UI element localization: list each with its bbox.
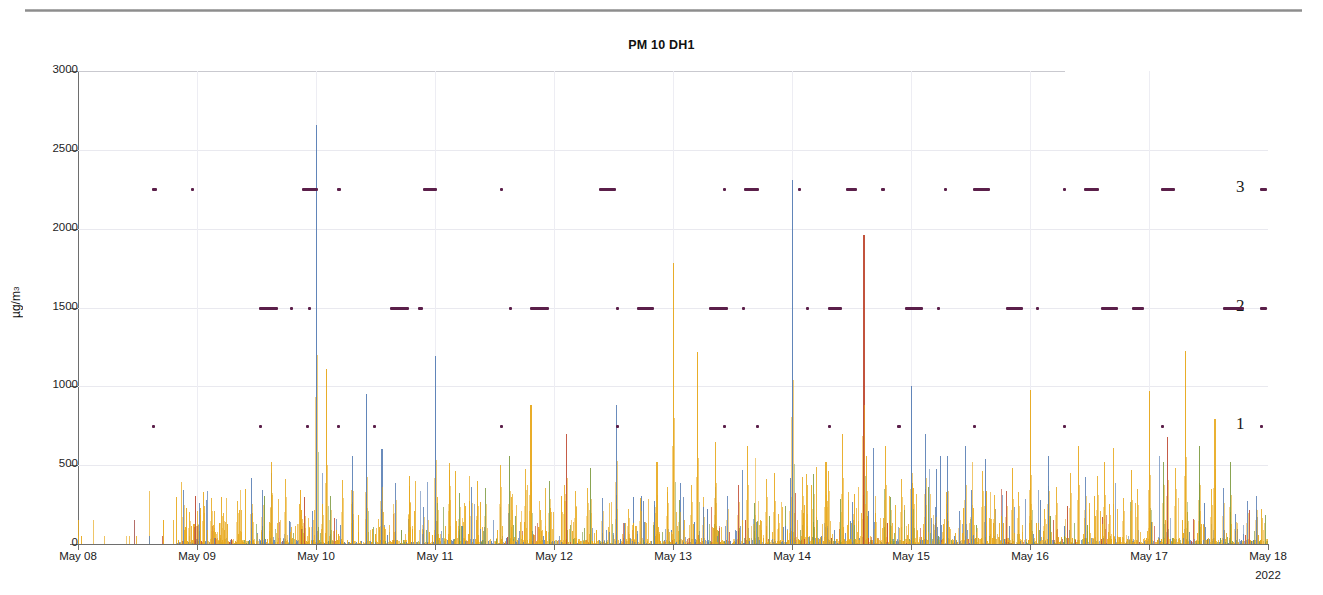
marker-dot	[423, 188, 437, 191]
data-spike	[589, 510, 590, 544]
data-spike	[914, 504, 915, 544]
marker-dot	[1260, 425, 1263, 428]
data-spike	[884, 500, 885, 544]
data-spike	[1110, 515, 1111, 544]
marker-dot	[742, 307, 745, 310]
data-spike	[434, 478, 435, 544]
data-spike	[420, 491, 421, 544]
marker-dot	[1161, 425, 1164, 428]
marker-dot	[973, 188, 990, 191]
data-spike	[510, 491, 511, 544]
data-spike	[739, 502, 740, 544]
data-spike	[791, 417, 792, 544]
data-spike	[321, 524, 322, 544]
data-spike	[666, 516, 667, 544]
data-spike	[672, 446, 673, 544]
data-spike	[1249, 510, 1250, 544]
marker-dot	[798, 188, 801, 191]
data-spike	[541, 520, 542, 544]
marker-dot	[152, 425, 155, 428]
data-spike	[714, 498, 715, 544]
marker-dot	[259, 307, 278, 310]
data-spike	[886, 485, 887, 544]
data-spike	[1032, 510, 1033, 544]
y-tick-label-text: 1000	[32, 378, 78, 390]
data-spike	[862, 436, 863, 544]
data-spike	[801, 510, 802, 544]
data-spike	[889, 520, 890, 544]
data-spike	[1084, 510, 1085, 544]
data-spike	[924, 494, 925, 544]
x-tick-label: May 10	[297, 550, 335, 562]
marker-dot	[1223, 307, 1244, 310]
data-spike	[1019, 506, 1020, 544]
data-spike	[773, 512, 774, 544]
data-spike	[1005, 517, 1006, 544]
data-spike	[704, 517, 705, 544]
data-spike	[627, 526, 628, 544]
marker-dot	[1260, 188, 1267, 191]
data-spike	[298, 524, 299, 544]
data-spike	[261, 517, 262, 544]
y-tick-label-text: 0	[32, 536, 78, 548]
series-canvas	[78, 71, 1268, 544]
data-spike	[1055, 515, 1056, 544]
data-spike	[1071, 493, 1072, 544]
data-spike	[358, 532, 359, 544]
data-spike	[675, 482, 676, 544]
data-spike	[470, 516, 471, 545]
data-spike	[394, 513, 395, 544]
data-spike	[382, 487, 383, 544]
data-spike	[1267, 541, 1268, 544]
data-spike	[1213, 488, 1214, 544]
data-spike	[1215, 469, 1216, 544]
data-spike	[851, 523, 852, 544]
x-tick-label: May 09	[178, 550, 216, 562]
data-spike	[995, 509, 996, 544]
data-spike	[460, 507, 461, 544]
data-spike	[438, 510, 439, 544]
data-spike	[576, 506, 577, 544]
data-spike	[1237, 523, 1238, 544]
data-spike	[696, 477, 697, 544]
marker-dot	[1161, 188, 1175, 191]
data-spike	[1036, 523, 1037, 544]
data-spike	[472, 503, 473, 544]
data-spike	[465, 506, 466, 544]
marker-dot	[756, 425, 759, 428]
marker-dot	[616, 425, 619, 428]
data-spike	[655, 507, 656, 544]
data-spike	[1057, 503, 1058, 544]
data-spike	[702, 525, 703, 544]
data-spike	[516, 505, 517, 544]
data-spike	[1079, 485, 1080, 544]
screenshot-page: PM 10 DH1 µg/m3 050010001500200025003000…	[0, 0, 1323, 595]
data-spike	[1077, 500, 1078, 544]
marker-dot	[1132, 307, 1144, 310]
data-spike	[303, 523, 304, 544]
data-spike	[753, 524, 754, 544]
data-spike	[325, 483, 326, 544]
data-spike	[765, 512, 766, 544]
data-spike	[1224, 503, 1225, 544]
marker-dot	[302, 188, 319, 191]
data-spike	[318, 452, 319, 544]
data-spike	[777, 529, 778, 544]
data-spike	[964, 500, 965, 544]
data-spike	[548, 513, 549, 544]
data-spike	[574, 518, 575, 544]
plot-area	[78, 71, 1268, 544]
marker-dot	[1101, 307, 1118, 310]
data-spike	[539, 527, 540, 544]
data-spike	[876, 522, 877, 544]
data-spike	[853, 514, 854, 544]
marker-dot	[723, 425, 726, 428]
data-spike	[891, 510, 892, 544]
marker-dot	[616, 307, 620, 310]
data-spike	[270, 507, 271, 544]
data-spike	[311, 527, 312, 544]
data-spike	[629, 518, 630, 544]
data-spike	[775, 501, 776, 544]
data-spike	[245, 489, 246, 544]
data-spike	[1201, 524, 1202, 544]
